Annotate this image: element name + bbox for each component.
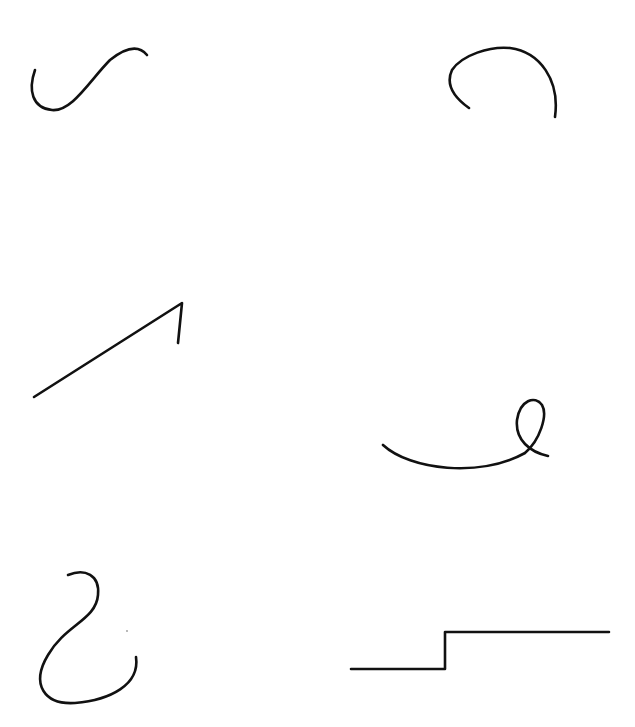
s-curve-stroke [32,49,147,111]
angle-line-stroke [34,303,182,397]
open-arc-stroke [450,48,556,117]
step-line-stroke [351,632,609,669]
scan-speck [126,630,128,632]
drawing-canvas [0,0,635,727]
loop-curve-stroke [383,400,548,468]
hook-curve-stroke [40,572,136,703]
